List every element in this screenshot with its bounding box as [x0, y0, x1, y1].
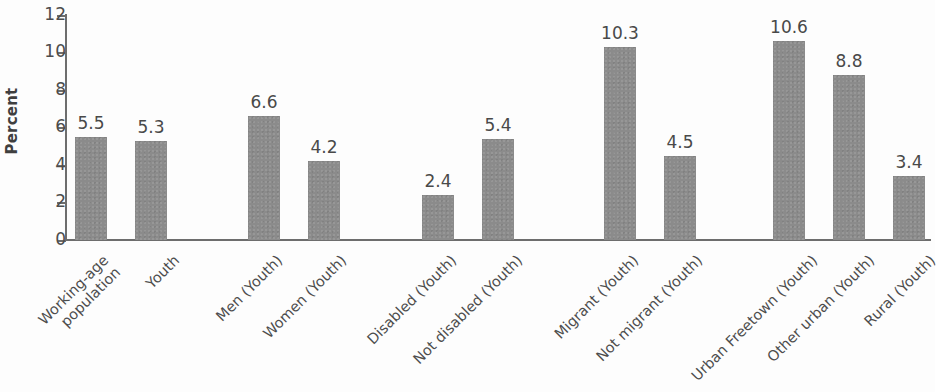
bar: [308, 161, 340, 240]
bar: [893, 176, 925, 240]
bar: [664, 156, 696, 240]
bar-value-label: 8.8: [813, 53, 885, 70]
x-category-label: Rural (Youth): [820, 252, 940, 372]
bar-value-label: 6.6: [228, 94, 300, 111]
bar: [604, 47, 636, 240]
bar: [422, 195, 454, 240]
x-category-label: Women (Youth): [215, 252, 350, 387]
bar-value-label: 4.2: [288, 139, 360, 156]
y-axis-title: Percent: [3, 81, 21, 161]
bar-value-label: 2.4: [402, 173, 474, 190]
bar-value-label: 4.5: [644, 134, 716, 151]
bar: [773, 41, 805, 240]
bar-value-label: 10.3: [581, 25, 659, 42]
y-tick-label: 4: [20, 156, 66, 173]
bar: [135, 141, 167, 240]
bar-value-label: 5.3: [115, 119, 187, 136]
bar: [248, 116, 280, 240]
bar: [75, 137, 107, 240]
bar: [833, 75, 865, 240]
y-tick-label: 12: [20, 6, 66, 23]
x-category-label: Men (Youth): [161, 252, 286, 377]
x-category-label: Disabled (Youth): [321, 252, 460, 391]
bar-value-label: 5.4: [462, 117, 534, 134]
y-tick-label: 8: [20, 81, 66, 98]
y-tick-label: 0: [20, 231, 66, 248]
bar: [482, 139, 514, 240]
x-category-label: Migrant (Youth): [503, 252, 642, 391]
y-tick-label: 2: [20, 193, 66, 210]
x-category-label: Urban Freetown (Youth): [634, 252, 821, 392]
bar-value-label: 10.6: [750, 19, 828, 36]
bar-value-label: 3.4: [873, 154, 940, 171]
y-tick-label: 10: [20, 43, 66, 60]
